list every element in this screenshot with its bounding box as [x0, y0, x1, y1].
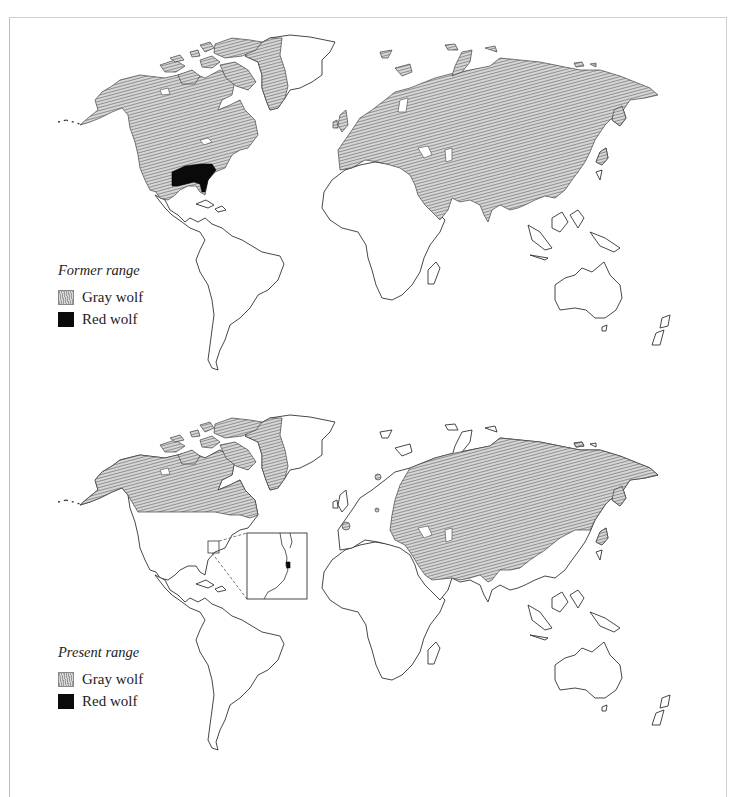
- hatched-swatch-icon: [58, 290, 74, 305]
- former-range-legend: Former range Gray wolf Red wolf: [58, 262, 143, 330]
- hatched-swatch-icon: [58, 672, 74, 687]
- legend-label: Gray wolf: [82, 671, 143, 688]
- solid-swatch-icon: [58, 694, 74, 709]
- legend-title: Former range: [58, 262, 143, 280]
- red-wolf-present-range: [286, 562, 290, 568]
- legend-item-red-wolf: Red wolf: [58, 690, 143, 712]
- legend-label: Red wolf: [82, 693, 137, 710]
- present-range-legend: Present range Gray wolf Red wolf: [58, 644, 143, 712]
- legend-label: Gray wolf: [82, 289, 143, 306]
- north-carolina-inset: [247, 533, 307, 599]
- legend-item-gray-wolf: Gray wolf: [58, 668, 143, 690]
- legend-item-red-wolf: Red wolf: [58, 308, 143, 330]
- legend-item-gray-wolf: Gray wolf: [58, 286, 143, 308]
- solid-swatch-icon: [58, 312, 74, 327]
- legend-title: Present range: [58, 644, 143, 662]
- legend-label: Red wolf: [82, 311, 137, 328]
